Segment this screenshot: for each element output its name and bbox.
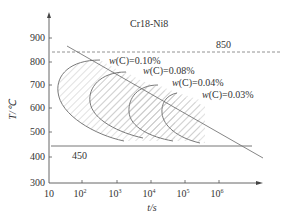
y-tick-300: 300: [30, 177, 45, 188]
annotation-c004-text: (C)=0.04%: [179, 77, 224, 89]
x-tick-1e3: 103: [109, 188, 122, 199]
x-tick-1e5: 105: [177, 188, 190, 199]
y-axis-arrow-icon: [47, 12, 51, 18]
y-tick-400: 400: [30, 151, 45, 162]
x-tick-1e4: 104: [143, 188, 156, 199]
y-tick-600: 600: [30, 102, 45, 113]
label-850: 850: [216, 39, 231, 50]
y-tick-900: 900: [30, 32, 45, 43]
x-axis-label: t/s: [147, 202, 157, 213]
y-tick-500: 500: [30, 126, 45, 137]
annotation-c008-text: (C)=0.08%: [150, 65, 195, 77]
label-450: 450: [72, 150, 87, 161]
y-axis-label: T/℃: [7, 98, 18, 119]
x-tick-1e2: 102: [74, 188, 87, 199]
annotation-c003: w(C)=0.03%: [202, 89, 253, 101]
annotation-c003-text: (C)=0.03%: [209, 89, 254, 101]
y-tick-800: 800: [30, 56, 45, 67]
x-tick-10: 10: [44, 188, 54, 199]
x-axis-arrow-icon: [256, 181, 263, 185]
x-tick-labels: 10 102 103 104 105 106: [44, 188, 224, 199]
y-tick-700: 700: [30, 79, 45, 90]
y-tick-labels: 900 800 700 600 500 400 300: [30, 32, 45, 188]
chart-canvas: Cr18-Ni8 850 450 w(C)=0.10% w(C)=0.08% w…: [0, 0, 282, 220]
annotation-c008: w(C)=0.08%: [143, 65, 194, 77]
chart-title: Cr18-Ni8: [130, 18, 168, 29]
annotation-c004: w(C)=0.04%: [172, 77, 223, 89]
x-tick-1e6: 106: [211, 188, 224, 199]
